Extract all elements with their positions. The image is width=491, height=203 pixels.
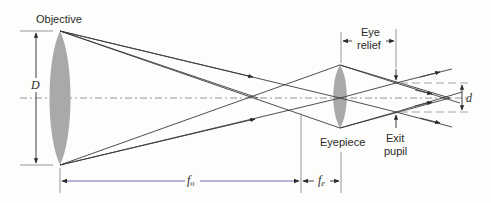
eye-relief-label-2: relief [357,39,382,51]
ray-arrow [420,118,440,123]
ray [396,112,452,127]
rays-top [60,31,340,128]
ray [340,65,450,98]
objective-diameter-label: D [30,78,40,92]
ray [340,98,396,112]
eyepiece-focal-length-label: fe [318,173,325,188]
eyepiece-label: Eyepiece [320,136,365,148]
ray-arrow [60,119,255,165]
exit-pupil-label-2: pupil [384,145,407,157]
eye-relief-label-1: Eye [361,26,380,38]
rays-bottom [60,65,340,165]
ray-arrow [60,31,258,98]
objective-focal-length-label: fo [187,173,194,188]
ray-arrow [420,72,440,77]
ray [396,92,462,112]
objective-label: Objective [36,13,82,25]
telescope-diagram: d D Objective Eyepiece Eye relief Exit p… [0,0,491,203]
ray [340,83,396,98]
objective-lens [50,31,71,165]
exit-pupil-label-1: Exit [386,132,404,144]
ray-arrow [60,31,253,77]
exit-pupil-diameter-label: d [466,91,473,105]
rays-exit [340,65,462,128]
ray [60,65,340,165]
